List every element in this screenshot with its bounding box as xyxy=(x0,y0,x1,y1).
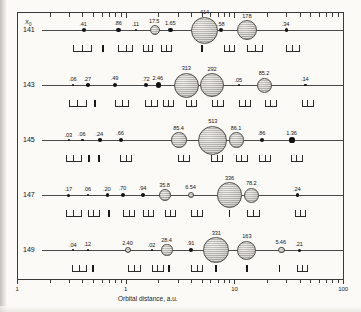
comb-mark-145-5 xyxy=(211,155,222,162)
body-149-2 xyxy=(125,247,131,253)
plot-frame-top xyxy=(17,12,344,13)
mass-label-147-6: 6.54 xyxy=(185,184,196,190)
comb-mark-141-2 xyxy=(118,45,132,52)
mass-label-147-8: 78.2 xyxy=(246,180,257,186)
mass-label-145-0: .03 xyxy=(64,132,71,138)
mass-label-145-1: .06 xyxy=(78,131,85,137)
planetary-systems-figure: X0 141.41.86.1117.51.65414.58178.34143.0… xyxy=(0,0,361,312)
comb-mark-149-2 xyxy=(128,265,140,272)
comb-mark-141-4 xyxy=(161,45,171,52)
top-axis-tick xyxy=(310,13,311,17)
mass-label-147-9: .24 xyxy=(293,186,300,192)
body-145-2 xyxy=(98,138,101,141)
comb-mark-149-1 xyxy=(92,265,94,272)
body-147-2 xyxy=(106,193,109,196)
body-147-0 xyxy=(67,194,70,197)
axis-tick xyxy=(178,279,179,283)
comb-mark-141-1 xyxy=(102,45,104,52)
mass-label-145-6: 86.1 xyxy=(231,125,242,131)
comb-mark-143-2 xyxy=(115,100,128,107)
mass-label-143-0: .06 xyxy=(69,76,76,82)
mass-label-147-1: .06 xyxy=(84,186,91,192)
body-141-7 xyxy=(237,20,257,40)
comb-mark-143-4 xyxy=(163,100,174,107)
comb-mark-149-3 xyxy=(152,265,163,272)
body-143-2 xyxy=(113,83,117,87)
axis-tick xyxy=(332,279,333,283)
axis-tick xyxy=(202,279,203,283)
comb-mark-145-3 xyxy=(120,155,131,162)
top-axis-tick xyxy=(102,13,103,17)
top-axis-tick xyxy=(229,13,230,17)
top-axis-tick xyxy=(50,13,51,17)
axis-tick xyxy=(102,279,103,283)
comb-mark-143-5 xyxy=(186,100,195,107)
body-147-3 xyxy=(121,193,125,197)
comb-mark-147-1 xyxy=(88,210,99,217)
axis-tick-label: 10 xyxy=(231,286,238,292)
top-axis-tick xyxy=(93,13,94,17)
comb-mark-149-0 xyxy=(72,265,86,272)
mass-label-143-3: .72 xyxy=(142,76,149,82)
axis-tick xyxy=(234,279,235,284)
top-axis-tick xyxy=(158,13,159,17)
mass-label-149-3: .02 xyxy=(148,242,155,248)
comb-mark-141-0 xyxy=(73,45,91,52)
comb-mark-147-7 xyxy=(229,210,231,217)
body-143-6 xyxy=(200,73,224,97)
mass-label-149-9: .21 xyxy=(295,241,302,247)
body-147-8 xyxy=(244,188,259,203)
body-143-4 xyxy=(156,82,162,88)
axis-tick xyxy=(224,279,225,283)
mass-label-145-4: 85.4 xyxy=(173,125,184,131)
row-label-147: 147 xyxy=(23,191,35,198)
mass-label-149-8: 5.46 xyxy=(275,239,286,245)
mass-label-143-1: .27 xyxy=(84,76,91,82)
plot-frame-right xyxy=(343,12,344,280)
mass-label-141-7: 178 xyxy=(242,13,251,19)
top-axis-tick xyxy=(338,13,339,17)
comb-mark-143-1 xyxy=(94,100,96,107)
body-147-5 xyxy=(159,189,171,201)
axis-tick xyxy=(218,279,219,283)
axis-tick xyxy=(310,279,311,283)
axis-tick xyxy=(229,279,230,283)
body-143-8 xyxy=(257,78,272,93)
plot-frame-left xyxy=(17,12,18,280)
mass-label-149-6: 331 xyxy=(212,230,221,236)
axis-tick xyxy=(17,279,18,284)
body-145-3 xyxy=(119,138,123,142)
top-axis-tick xyxy=(218,13,219,17)
mass-label-143-2: .49 xyxy=(111,75,118,81)
top-axis-tick xyxy=(210,13,211,17)
axis-tick xyxy=(158,279,159,283)
scan-edge-bottom xyxy=(0,306,361,312)
body-149-5 xyxy=(189,248,193,252)
body-147-7 xyxy=(217,182,243,208)
mass-label-147-3: .70 xyxy=(119,185,126,191)
orbit-line-145 xyxy=(42,140,343,141)
axis-tick xyxy=(69,279,70,283)
comb-mark-149-8 xyxy=(279,265,281,272)
top-axis-tick xyxy=(178,13,179,17)
x-axis-line xyxy=(17,279,344,280)
comb-mark-149-5 xyxy=(191,265,202,272)
mass-label-145-5: 513 xyxy=(208,118,217,124)
row-label-141: 141 xyxy=(23,26,35,33)
comb-mark-147-8 xyxy=(247,210,260,217)
comb-mark-147-5 xyxy=(165,210,175,217)
comb-mark-145-7 xyxy=(259,155,270,162)
body-149-7 xyxy=(237,241,256,260)
mass-label-149-4: 28.4 xyxy=(161,237,172,243)
mass-label-149-5: .91 xyxy=(187,240,194,246)
axis-tick-label: 1 xyxy=(15,286,18,292)
axis-tick xyxy=(126,279,127,284)
body-141-3 xyxy=(150,25,160,35)
axis-tick xyxy=(82,279,83,283)
mass-label-149-2: 2.40 xyxy=(122,240,133,246)
comb-mark-143-7 xyxy=(239,100,250,107)
comb-mark-141-3 xyxy=(143,45,152,52)
body-145-5 xyxy=(198,126,227,155)
top-axis-tick xyxy=(234,13,235,18)
top-axis-tick xyxy=(286,13,287,17)
